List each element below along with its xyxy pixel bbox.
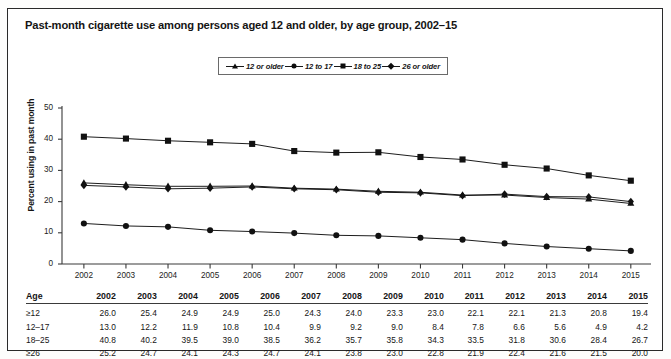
table-cell: 24.9 <box>157 303 198 318</box>
table-body: ≥1226.025.424.924.925.024.324.023.323.02… <box>26 303 648 358</box>
table-cell: 23.0 <box>403 303 444 318</box>
legend-item-label: 12 to 17 <box>305 62 332 71</box>
table-cell: 23.8 <box>321 345 362 358</box>
square-marker-icon <box>334 62 352 71</box>
table-cell: 26.7 <box>607 332 648 345</box>
table-cell: 25.4 <box>116 303 157 318</box>
column-header-2008: 2008 <box>321 288 362 303</box>
table-cell: 24.1 <box>280 345 321 358</box>
table-cell: 9.2 <box>321 318 362 331</box>
table-cell: 12.2 <box>116 318 157 331</box>
table-cell: 38.5 <box>239 332 280 345</box>
chart-legend: 12 or older 12 to 17 18 to 25 26 or olde… <box>218 57 448 75</box>
page-title: Past-month cigarette use among persons a… <box>25 19 457 31</box>
column-header-2015: 2015 <box>607 288 648 303</box>
table-cell: 24.3 <box>198 345 239 358</box>
row-label: ≥26 <box>26 345 75 358</box>
column-header-age: Age <box>26 288 75 303</box>
table-cell: 24.1 <box>157 345 198 358</box>
table-header: Age 200220032004200520062007200820092010… <box>26 288 648 303</box>
table-cell: 19.4 <box>607 303 648 318</box>
column-header-2007: 2007 <box>280 288 321 303</box>
table-cell: 24.7 <box>239 345 280 358</box>
table-cell: 24.0 <box>321 303 362 318</box>
column-header-2010: 2010 <box>403 288 444 303</box>
table-cell: 24.7 <box>116 345 157 358</box>
table-cell: 21.5 <box>566 345 607 358</box>
table-cell: 23.3 <box>362 303 403 318</box>
table-cell: 40.2 <box>116 332 157 345</box>
table-cell: 10.8 <box>198 318 239 331</box>
table-cell: 10.4 <box>239 318 280 331</box>
table-cell: 21.9 <box>444 345 484 358</box>
row-label: 18–25 <box>26 332 75 345</box>
table-cell: 5.6 <box>525 318 566 331</box>
legend-item[interactable]: 12 or older <box>226 62 284 71</box>
table-cell: 9.9 <box>280 318 321 331</box>
figure-container: Past-month cigarette use among persons a… <box>0 0 671 359</box>
column-header-2009: 2009 <box>362 288 403 303</box>
table-cell: 21.3 <box>525 303 566 318</box>
table-cell: 21.6 <box>525 345 566 358</box>
table-row: 12–1713.012.211.910.810.49.99.29.08.47.8… <box>26 318 648 331</box>
table-cell: 11.9 <box>157 318 198 331</box>
table-cell: 33.5 <box>444 332 484 345</box>
column-header-2003: 2003 <box>116 288 157 303</box>
table-cell: 31.8 <box>484 332 525 345</box>
table-cell: 8.4 <box>403 318 444 331</box>
table-cell: 30.6 <box>525 332 566 345</box>
table-cell: 7.8 <box>444 318 484 331</box>
table-cell: 40.8 <box>75 332 116 345</box>
column-header-2006: 2006 <box>239 288 280 303</box>
row-label: 12–17 <box>26 318 75 331</box>
table-cell: 9.0 <box>362 318 403 331</box>
column-header-2012: 2012 <box>484 288 525 303</box>
table-cell: 39.5 <box>157 332 198 345</box>
legend-item-label: 12 or older <box>246 62 284 71</box>
table-cell: 24.9 <box>198 303 239 318</box>
table-cell: 28.4 <box>566 332 607 345</box>
table-cell: 22.8 <box>403 345 444 358</box>
table-cell: 36.2 <box>280 332 321 345</box>
table-row: ≥1226.025.424.924.925.024.324.023.323.02… <box>26 303 648 318</box>
table-row: ≥2625.224.724.124.324.724.123.823.022.82… <box>26 345 648 358</box>
diamond-marker-icon <box>382 62 400 71</box>
table-cell: 13.0 <box>75 318 116 331</box>
table-cell: 26.0 <box>75 303 116 318</box>
table-cell: 25.2 <box>75 345 116 358</box>
table-header-row: Age 200220032004200520062007200820092010… <box>26 288 648 303</box>
column-header-2004: 2004 <box>157 288 198 303</box>
table-cell: 23.0 <box>362 345 403 358</box>
legend-item-label: 18 to 25 <box>354 62 381 71</box>
column-header-2005: 2005 <box>198 288 239 303</box>
legend-item[interactable]: 12 to 17 <box>285 62 332 71</box>
circle-marker-icon <box>285 62 303 71</box>
table-cell: 22.4 <box>484 345 525 358</box>
table-cell: 22.1 <box>444 303 484 318</box>
triangle-marker-icon <box>226 62 244 71</box>
table-cell: 25.0 <box>239 303 280 318</box>
column-header-2014: 2014 <box>566 288 607 303</box>
table-cell: 22.1 <box>484 303 525 318</box>
legend-item[interactable]: 18 to 25 <box>334 62 381 71</box>
table-row: 18–2540.840.239.539.038.536.235.735.834.… <box>26 332 648 345</box>
data-table: Age 200220032004200520062007200820092010… <box>26 288 648 358</box>
table-cell: 34.3 <box>403 332 444 345</box>
legend-item[interactable]: 26 or older <box>382 62 440 71</box>
table-cell: 39.0 <box>198 332 239 345</box>
row-label: ≥12 <box>26 303 75 318</box>
table-cell: 6.6 <box>484 318 525 331</box>
table-cell: 4.9 <box>566 318 607 331</box>
table-cell: 4.2 <box>607 318 648 331</box>
legend-item-label: 26 or older <box>402 62 440 71</box>
column-header-2013: 2013 <box>525 288 566 303</box>
table-cell: 20.0 <box>607 345 648 358</box>
column-header-2011: 2011 <box>444 288 484 303</box>
column-header-2002: 2002 <box>75 288 116 303</box>
table-cell: 24.3 <box>280 303 321 318</box>
table-cell: 35.8 <box>362 332 403 345</box>
table-cell: 20.8 <box>566 303 607 318</box>
table-cell: 35.7 <box>321 332 362 345</box>
